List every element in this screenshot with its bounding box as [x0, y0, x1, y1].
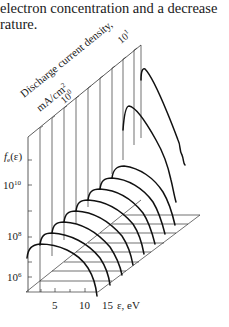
x-tick-label-10: 10	[79, 299, 91, 311]
waterfall-chart: Discharge current density, mA/cm2 100 10…	[0, 0, 229, 327]
x-tick-label-5: 5	[52, 299, 58, 311]
y-axis-title: fe(ε)	[4, 150, 22, 164]
curve-10	[141, 69, 185, 165]
y-tick-label-10-10: 1010	[3, 179, 22, 191]
curve-9	[123, 106, 176, 202]
z-tick-label-10-1: 101	[115, 27, 133, 45]
y-tick-label-10-8: 108	[7, 230, 22, 242]
x-tick-label-15: 15	[102, 299, 114, 311]
vertical-gridlines	[40, 45, 141, 292]
y-tick-label-10-6: 106	[7, 271, 22, 283]
curve-2	[40, 233, 110, 285]
x-axis-title: ε, eV	[117, 299, 140, 311]
